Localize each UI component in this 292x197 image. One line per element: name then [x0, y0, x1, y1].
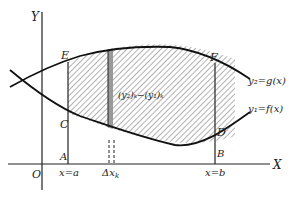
label-dx: Δxk	[101, 167, 119, 180]
point-C: C	[60, 118, 69, 131]
area-between-curves-diagram: Y X O E F C D A B y₂=g(x) y₁=f(x) x=a x=…	[0, 0, 292, 197]
label-x-b: x=b	[205, 167, 225, 178]
y-axis-label: Y	[31, 10, 40, 24]
point-B: B	[216, 148, 224, 159]
x-axis-label: X	[272, 158, 282, 172]
point-E: E	[60, 49, 69, 62]
point-F: F	[209, 51, 218, 64]
point-D: D	[216, 126, 226, 139]
label-x-a: x=a	[59, 167, 79, 178]
label-f: y₁=f(x)	[247, 103, 283, 114]
point-A: A	[59, 151, 67, 162]
origin-label: O	[32, 168, 41, 181]
label-strip-height: (y₂)ₖ−(y₁)ₖ	[118, 90, 164, 100]
label-g: y₂=g(x)	[247, 75, 286, 86]
